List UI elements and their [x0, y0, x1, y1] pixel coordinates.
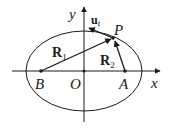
- point-a: [123, 69, 127, 73]
- point-b: [39, 69, 43, 73]
- label-o: O: [70, 76, 81, 92]
- label-r1-sub: 1: [62, 52, 67, 62]
- x-axis-label: x: [150, 75, 158, 91]
- label-r1: R1: [52, 45, 67, 62]
- vector-ut: [89, 28, 113, 38]
- label-r2-sub: 2: [110, 60, 115, 70]
- label-p: P: [113, 22, 123, 38]
- label-b: B: [35, 76, 44, 92]
- vector-r2: [115, 41, 125, 71]
- ellipse-diagram: y x B O A P R1 R2 ut: [0, 0, 169, 131]
- y-axis-label: y: [67, 6, 76, 22]
- label-ut-sub: t: [98, 18, 101, 28]
- label-a: A: [118, 76, 129, 92]
- label-r2: R2: [100, 53, 115, 70]
- point-o: [83, 70, 86, 73]
- label-ut: ut: [91, 13, 101, 28]
